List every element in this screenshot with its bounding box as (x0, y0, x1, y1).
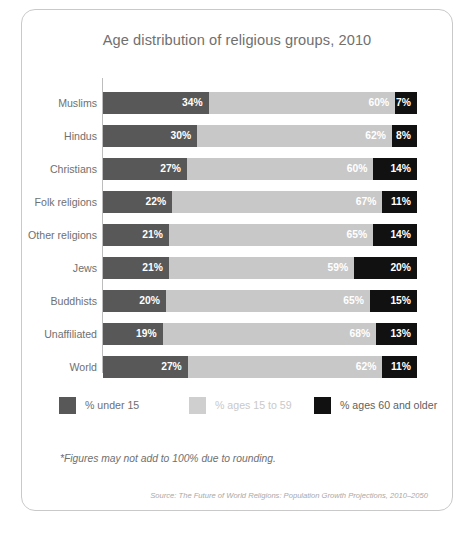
bar-value-label: 13% (390, 323, 411, 345)
chart-row: Jews21%59%20% (22, 257, 454, 279)
legend-item-15-to-59: % ages 15 to 59 (189, 396, 292, 414)
bar-segment-ages-60-and-older: 13% (376, 323, 417, 345)
bar-value-label: 34% (182, 92, 203, 114)
bar-segment-ages-60-and-older: 20% (354, 257, 417, 279)
chart-row: Unaffiliated19%68%13% (22, 323, 454, 345)
stacked-bar: 27%62%11% (103, 356, 417, 378)
bar-segment-under-15: 19% (103, 323, 163, 345)
bar-value-label: 11% (391, 356, 411, 378)
bar-segment-under-15: 21% (103, 257, 169, 279)
bar-segment-ages-15-to-59: 60% (209, 92, 396, 114)
bar-value-label: 60% (347, 158, 368, 180)
bar-segment-ages-60-and-older: 11% (382, 356, 417, 378)
bar-value-label: 21% (142, 257, 163, 279)
stacked-bar: 34%60%7% (103, 92, 417, 114)
bar-segment-ages-15-to-59: 59% (169, 257, 354, 279)
chart-source: Source: The Future of World Religions: P… (150, 491, 428, 500)
bar-segment-under-15: 27% (103, 356, 188, 378)
chart-row: Folk religions22%67%11% (22, 191, 454, 213)
bar-segment-under-15: 22% (103, 191, 172, 213)
chart-row: World27%62%11% (22, 356, 454, 378)
bar-value-label: 22% (145, 191, 166, 213)
bar-value-label: 67% (356, 191, 377, 213)
chart-row: Buddhists20%65%15% (22, 290, 454, 312)
stacked-bar: 22%67%11% (103, 191, 417, 213)
bar-value-label: 19% (136, 323, 157, 345)
bar-value-label: 62% (365, 125, 386, 147)
row-label-hindus: Hindus (64, 125, 97, 147)
bar-segment-ages-15-to-59: 60% (187, 158, 374, 180)
bar-segment-ages-15-to-59: 65% (169, 224, 373, 246)
bar-segment-ages-60-and-older: 14% (373, 158, 417, 180)
bar-value-label: 59% (328, 257, 349, 279)
bar-segment-ages-15-to-59: 68% (163, 323, 377, 345)
bar-value-label: 60% (369, 92, 390, 114)
stacked-bar: 27%60%14% (103, 158, 417, 180)
bar-segment-ages-15-to-59: 65% (166, 290, 370, 312)
bar-value-label: 14% (390, 158, 411, 180)
bar-segment-under-15: 20% (103, 290, 166, 312)
legend-swatch-icon-under-15 (59, 397, 76, 414)
chart-row: Muslims34%60%7% (22, 92, 454, 114)
legend-swatch-icon-60-and-older (314, 397, 331, 414)
row-label-christians: Christians (50, 158, 97, 180)
row-label-world: World (70, 356, 97, 378)
legend-item-under-15: % under 15 (59, 396, 139, 414)
bar-segment-under-15: 21% (103, 224, 169, 246)
bar-value-label: 30% (171, 125, 192, 147)
bar-value-label: 27% (161, 356, 182, 378)
chart-card: Age distribution of religious groups, 20… (21, 9, 453, 511)
legend-label-15-to-59: % ages 15 to 59 (215, 399, 292, 411)
bar-value-label: 15% (390, 290, 411, 312)
row-label-other-religions: Other religions (28, 224, 97, 246)
legend-label-60-and-older: % ages 60 and older (340, 399, 437, 411)
bar-value-label: 62% (356, 356, 377, 378)
bar-value-label: 65% (346, 224, 367, 246)
row-label-unaffiliated: Unaffiliated (44, 323, 97, 345)
bar-value-label: 8% (396, 125, 411, 147)
stacked-bar: 21%65%14% (103, 224, 417, 246)
chart-footnote: *Figures may not add to 100% due to roun… (60, 453, 276, 464)
bar-segment-ages-60-and-older: 7% (395, 92, 417, 114)
legend-label-under-15: % under 15 (85, 399, 139, 411)
bar-value-label: 27% (160, 158, 181, 180)
bar-segment-ages-15-to-59: 62% (188, 356, 383, 378)
bar-value-label: 14% (390, 224, 411, 246)
row-label-folk-religions: Folk religions (35, 191, 97, 213)
legend-item-60-and-older: % ages 60 and older (314, 396, 437, 414)
bar-segment-under-15: 34% (103, 92, 209, 114)
bar-segment-ages-15-to-59: 62% (197, 125, 392, 147)
bar-value-label: 21% (142, 224, 163, 246)
bar-value-label: 11% (391, 191, 411, 213)
bar-value-label: 20% (390, 257, 411, 279)
bar-segment-ages-60-and-older: 8% (392, 125, 417, 147)
legend-swatch-icon-15-to-59 (189, 397, 206, 414)
stacked-bar: 20%65%15% (103, 290, 417, 312)
bar-segment-ages-60-and-older: 15% (370, 290, 417, 312)
chart-plot-area: Muslims34%60%7%Hindus30%62%8%Christians2… (22, 10, 454, 512)
bar-value-label: 7% (396, 92, 411, 114)
stacked-bar: 30%62%8% (103, 125, 417, 147)
bar-value-label: 65% (343, 290, 364, 312)
bar-segment-ages-15-to-59: 67% (172, 191, 382, 213)
chart-row: Other religions21%65%14% (22, 224, 454, 246)
bar-segment-under-15: 27% (103, 158, 187, 180)
row-label-jews: Jews (73, 257, 97, 279)
row-label-muslims: Muslims (58, 92, 97, 114)
stacked-bar: 21%59%20% (103, 257, 417, 279)
row-label-buddhists: Buddhists (50, 290, 97, 312)
bar-segment-ages-60-and-older: 11% (382, 191, 417, 213)
bar-value-label: 20% (139, 290, 160, 312)
chart-row: Christians27%60%14% (22, 158, 454, 180)
bar-value-label: 68% (350, 323, 371, 345)
bar-segment-under-15: 30% (103, 125, 197, 147)
chart-legend: % under 15 % ages 15 to 59 % ages 60 and… (22, 396, 454, 418)
bar-segment-ages-60-and-older: 14% (373, 224, 417, 246)
stacked-bar: 19%68%13% (103, 323, 417, 345)
chart-row: Hindus30%62%8% (22, 125, 454, 147)
